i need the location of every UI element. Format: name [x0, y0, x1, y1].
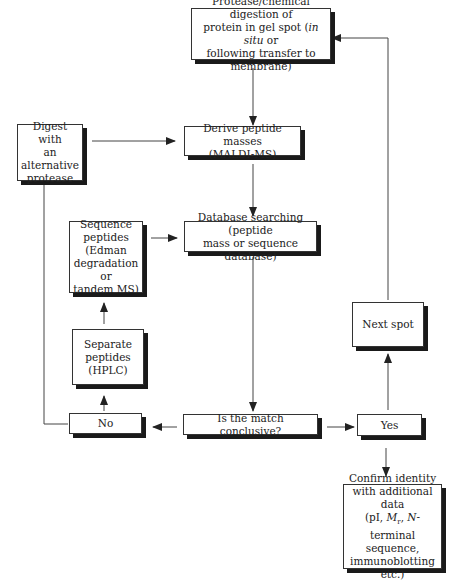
node-separate-peptides: Separate peptides (HPLC)	[72, 329, 144, 385]
node-derive-masses: Derive peptide masses (MALDI-MS)	[184, 126, 301, 156]
node-text: following transfer to membrane)	[195, 47, 327, 73]
node-text: Protease/chemical digestion of	[195, 0, 327, 21]
node-text: protease	[21, 172, 79, 185]
node-text: Separate	[84, 338, 132, 351]
node-text: (HPLC)	[84, 364, 132, 377]
node-text: Next spot	[362, 318, 414, 331]
node-text: etc.)	[347, 568, 438, 581]
node-text: protein in gel spot (in situ or	[195, 21, 327, 47]
node-text: an alternative	[21, 146, 79, 172]
node-text: tandem MS)	[73, 283, 139, 296]
node-text: (Edman	[73, 244, 139, 257]
node-text: (MALDI-MS)	[188, 148, 297, 161]
node-text: No	[98, 417, 114, 430]
node-next-spot: Next spot	[352, 302, 424, 347]
node-text: Yes	[381, 419, 399, 432]
node-yes: Yes	[357, 414, 422, 436]
node-text: sequence,	[347, 542, 438, 555]
node-sequence-peptides: Sequence peptides (Edman degradation or …	[69, 221, 143, 293]
node-text: peptides	[73, 231, 139, 244]
node-text: Is the match conclusive?	[187, 412, 314, 438]
node-text: (pI, Mr, N-terminal	[347, 511, 438, 542]
node-text: mass or sequence database)	[188, 237, 313, 263]
node-text: Derive peptide masses	[188, 122, 297, 148]
node-digest-protein: Protease/chemical digestion of protein i…	[191, 8, 331, 60]
node-text: Digest with	[21, 120, 79, 146]
node-text: Confirm identity	[347, 472, 438, 485]
node-text: immunoblotting	[347, 555, 438, 568]
node-text: degradation or	[73, 257, 139, 283]
node-is-match-conclusive: Is the match conclusive?	[183, 414, 318, 435]
node-database-searching: Database searching (peptide mass or sequ…	[184, 221, 317, 252]
node-no: No	[69, 413, 142, 434]
node-alternative-protease: Digest with an alternative protease	[17, 124, 83, 181]
node-text: peptides	[84, 351, 132, 364]
node-text: with additional data	[347, 485, 438, 511]
node-confirm-identity: Confirm identity with additional data (p…	[343, 484, 442, 569]
node-text: Database searching (peptide	[188, 211, 313, 237]
node-text: Sequence	[73, 218, 139, 231]
